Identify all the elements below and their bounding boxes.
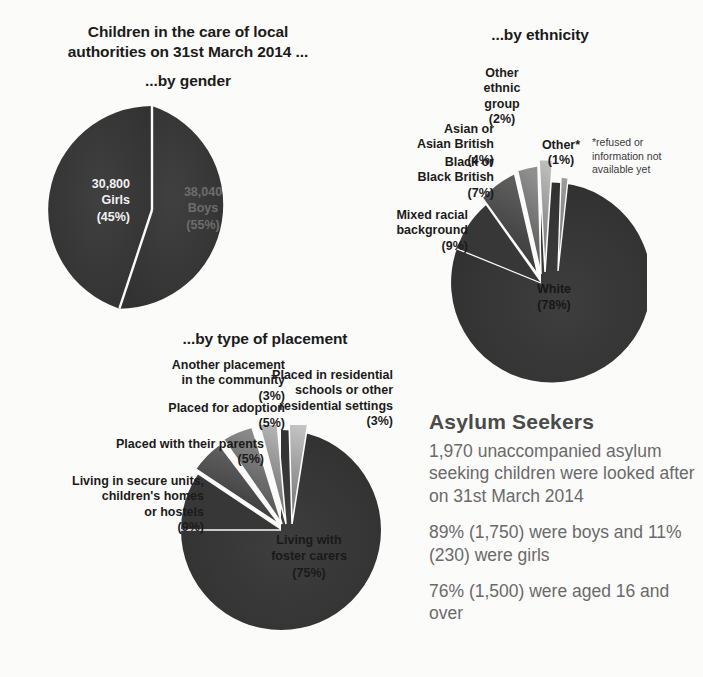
gender-girls-name: Girls: [52, 192, 130, 208]
mixed-l1: Mixed racial: [358, 208, 468, 223]
black-l1: Black or: [378, 155, 494, 170]
foster-l2: foster carers: [258, 548, 360, 564]
placement-label-parents: Placed with their parents (5%): [44, 437, 264, 468]
gender-label-boys: 38,040 Boys (55%): [166, 184, 240, 233]
ethnicity-label-black: Black or Black British (7%): [378, 155, 494, 201]
black-pct: (7%): [378, 186, 494, 201]
residential-pct: (3%): [253, 414, 393, 429]
gender-boys-count: 38,040: [166, 184, 240, 200]
foster-pct: (75%): [258, 565, 360, 581]
gender-chart-title: ...by gender: [48, 72, 328, 90]
footnote-l2: information not: [592, 150, 697, 164]
residential-l3: residential settings: [253, 399, 393, 414]
secure-l3: or hostels: [28, 505, 204, 520]
gender-label-girls: 30,800 Girls (45%): [52, 176, 130, 225]
foster-l1: Living with: [258, 532, 360, 548]
secure-pct: (9%): [28, 520, 204, 535]
footnote-l3: available yet: [592, 163, 697, 177]
placement-label-secure: Living in secure units, children's homes…: [28, 474, 204, 535]
black-l2: Black British: [378, 170, 494, 185]
secure-l2: children's homes: [28, 489, 204, 504]
mixed-pct: (9%): [358, 239, 468, 254]
asylum-paragraph-1: 1,970 unaccompanied asylum seeking child…: [429, 440, 697, 507]
residential-l1: Placed in residential: [253, 368, 393, 383]
residential-l2: schools or other: [253, 383, 393, 398]
gender-girls-pct: (45%): [52, 209, 130, 225]
asylum-seekers-block: Asylum Seekers 1,970 unaccompanied asylu…: [429, 410, 697, 639]
asylum-paragraph-3: 76% (1,500) were aged 16 and over: [429, 580, 697, 625]
ethnicity-footnote: *refused or information not available ye…: [592, 136, 697, 177]
white-name: White: [518, 281, 590, 297]
other-pct: (1%): [530, 153, 592, 168]
gender-boys-pct: (55%): [166, 217, 240, 233]
asylum-heading: Asylum Seekers: [429, 410, 697, 434]
ethnicity-label-white: White (78%): [518, 281, 590, 314]
other-ethnic-l2: ethnic: [466, 81, 538, 96]
gender-girls-count: 30,800: [52, 176, 130, 192]
other-ethnic-l3: group: [466, 97, 538, 112]
white-pct: (78%): [518, 297, 590, 313]
parents-l1: Placed with their parents: [44, 437, 264, 452]
asylum-paragraph-2: 89% (1,750) were boys and 11% (230) were…: [429, 521, 697, 566]
asian-l2: Asian British: [388, 137, 494, 152]
asian-l1: Asian or: [388, 122, 494, 137]
parents-pct: (5%): [44, 452, 264, 467]
infographic-canvas: Children in the care of local authoritie…: [0, 0, 703, 677]
page-title-line2: authorities on 31st March 2014 ...: [48, 42, 328, 62]
gender-boys-name: Boys: [166, 200, 240, 216]
placement-label-foster: Living with foster carers (75%): [258, 532, 360, 581]
placement-chart-title: ...by type of placement: [150, 330, 380, 348]
ethnicity-label-other: Other* (1%): [530, 138, 592, 169]
other-l1: Other*: [530, 138, 592, 153]
other-ethnic-l1: Other: [466, 66, 538, 81]
footnote-l1: *refused or: [592, 136, 697, 150]
ethnicity-label-other-ethnic-group: Other ethnic group (2%): [466, 66, 538, 127]
page-title: Children in the care of local authoritie…: [48, 22, 328, 62]
page-title-line1: Children in the care of local: [48, 22, 328, 42]
mixed-l2: background: [358, 223, 468, 238]
secure-l1: Living in secure units,: [28, 474, 204, 489]
placement-label-residential: Placed in residential schools or other r…: [253, 368, 393, 429]
ethnicity-chart-title: ...by ethnicity: [430, 26, 650, 44]
ethnicity-label-mixed: Mixed racial background (9%): [358, 208, 468, 254]
